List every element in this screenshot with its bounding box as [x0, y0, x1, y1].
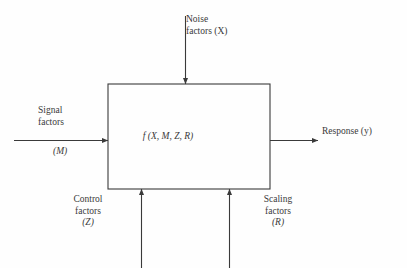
- control-factors-line1: Control: [73, 194, 102, 204]
- noise-factors-line2: factors (X): [186, 26, 227, 36]
- control-factors-line2: factors: [75, 206, 101, 216]
- response-label: Response (y): [322, 126, 372, 138]
- noise-factors-label: Noisefactors (X): [186, 14, 227, 37]
- control-factors-label: Controlfactors(Z): [60, 194, 116, 229]
- scaling-factors-symbol: (R): [272, 217, 284, 227]
- scaling-factors-line1: Scaling: [264, 194, 293, 204]
- signal-factors-symbol: (M): [53, 146, 67, 158]
- scaling-factors-label: Scalingfactors(R): [250, 194, 306, 229]
- diagram-canvas: Noisefactors (X) Signalfactors (M) f (X,…: [0, 0, 407, 268]
- system-function-label: f (X, M, Z, R): [118, 131, 218, 143]
- noise-factors-line1: Noise: [186, 14, 208, 24]
- scaling-factors-line2: factors: [265, 206, 291, 216]
- control-factors-symbol: (Z): [82, 217, 94, 227]
- signal-factors-label: Signalfactors: [38, 105, 64, 128]
- signal-factors-line1: Signal: [38, 105, 62, 115]
- signal-factors-line2: factors: [38, 117, 64, 127]
